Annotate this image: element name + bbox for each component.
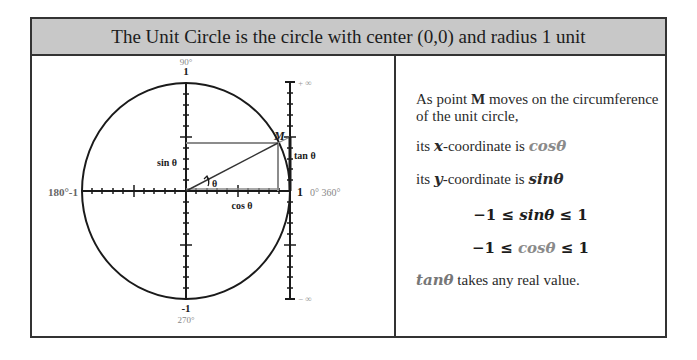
point-m-bold: M <box>471 91 485 107</box>
label-plus-infinity: + ∞ <box>298 78 312 88</box>
label-180-degree: 180°-1 <box>48 186 78 198</box>
cos-theta-term: cosθ <box>529 137 567 155</box>
label-bottom-minus-1: -1 <box>181 302 190 314</box>
intro-paragraph: As point M moves on the circumference of… <box>416 91 666 125</box>
label-sin: sin θ <box>157 157 177 168</box>
unit-circle-table: The Unit Circle is the circle with cente… <box>30 17 667 338</box>
label-tan: tan θ <box>294 150 316 161</box>
label-cos: cos θ <box>231 200 252 211</box>
label-minus-infinity: − ∞ <box>298 294 312 304</box>
unit-circle-diagram: 90° 1 180°-1 1 0° 360° -1 270° M sin θ c… <box>32 56 394 340</box>
header-title: The Unit Circle is the circle with cente… <box>111 26 585 48</box>
sin-inequality: −1 ≤ sinθ ≤ 1 <box>396 206 665 224</box>
sin-theta-term: sinθ <box>528 170 563 188</box>
tan-theta-term: tanθ <box>416 271 454 289</box>
x-coordinate-line: its x-coordinate is cosθ <box>416 138 566 155</box>
label-theta: θ <box>212 178 217 189</box>
table-header: The Unit Circle is the circle with cente… <box>32 19 665 56</box>
radius-om <box>186 143 278 191</box>
tan-line: tanθ takes any real value. <box>416 272 580 289</box>
label-270-degree: 270° <box>177 315 195 325</box>
label-0-360-degree: 0° 360° <box>310 187 341 198</box>
label-right-1: 1 <box>297 185 303 199</box>
y-coordinate-line: its y-coordinate is sinθ <box>416 171 564 188</box>
cos-inequality: −1 ≤ cosθ ≤ 1 <box>396 239 665 257</box>
explanation-cell: As point M moves on the circumference of… <box>396 56 665 336</box>
label-point-m: M <box>273 129 285 143</box>
label-top-1: 1 <box>183 65 189 77</box>
diagram-cell: 90° 1 180°-1 1 0° 360° -1 270° M sin θ c… <box>32 56 396 336</box>
